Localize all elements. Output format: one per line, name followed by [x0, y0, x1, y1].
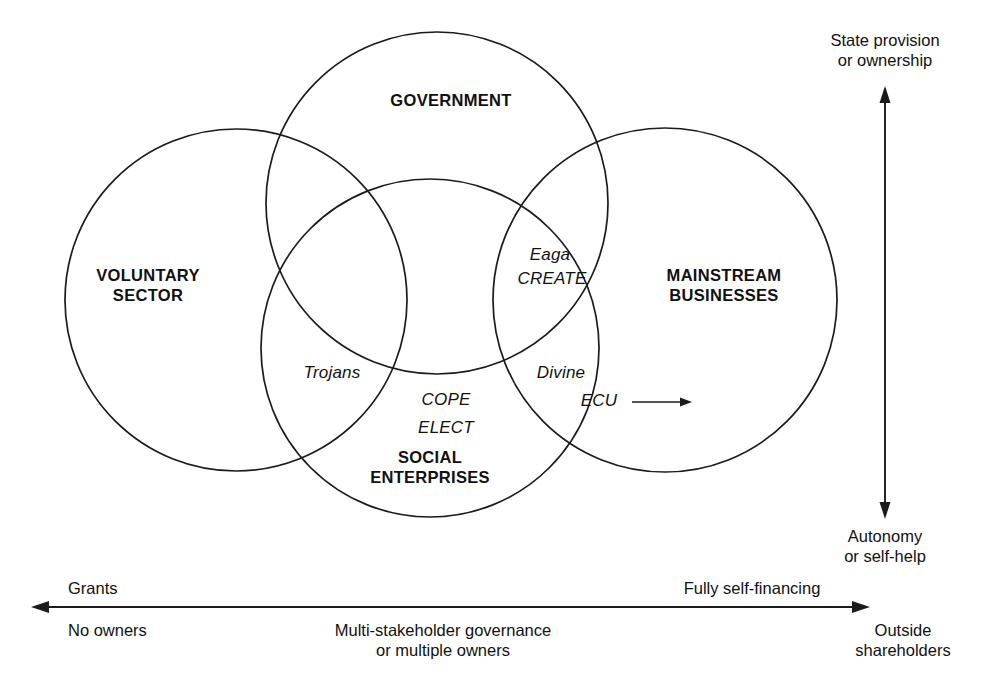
set-label-social-enterprises: SOCIAL ENTERPRISES — [370, 447, 490, 487]
org-label-ecu: ECU — [581, 391, 618, 412]
set-label-voluntary-sector-line1: VOLUNTARY — [96, 265, 200, 285]
set-label-social-enterprises-line2: ENTERPRISES — [370, 467, 490, 487]
set-label-mainstream-businesses-line1: MAINSTREAM — [667, 265, 782, 285]
circle-government — [266, 32, 608, 374]
vertical-axis-top-line2: or ownership — [830, 50, 939, 70]
set-label-voluntary-sector: VOLUNTARY SECTOR — [96, 265, 200, 305]
horizontal-axis-middle-caption: Multi-stakeholder governance or multiple… — [335, 620, 551, 660]
set-label-government-line1: GOVERNMENT — [390, 90, 511, 110]
vertical-axis-arrowhead-up — [880, 86, 891, 103]
ecu-pointer-arrowhead — [680, 398, 692, 407]
org-label-trojans: Trojans — [304, 363, 361, 384]
horizontal-axis-left-below-caption: No owners — [68, 620, 147, 640]
horizontal-axis-arrowhead-right — [852, 601, 870, 613]
org-label-eaga: Eaga — [530, 245, 571, 266]
set-label-voluntary-sector-line2: SECTOR — [96, 285, 200, 305]
vertical-axis-top-caption: State provision or ownership — [830, 30, 939, 70]
org-label-create: CREATE — [518, 269, 587, 290]
set-label-mainstream-businesses-line2: BUSINESSES — [667, 285, 782, 305]
horizontal-axis-middle-line2: or multiple owners — [335, 640, 551, 660]
horizontal-axis-right-above-caption: Fully self-financing — [684, 578, 821, 598]
circle-mainstream-businesses — [493, 128, 837, 472]
org-label-elect: ELECT — [418, 418, 474, 439]
org-label-cope: COPE — [422, 390, 471, 411]
set-label-government: GOVERNMENT — [390, 90, 511, 110]
horizontal-axis-arrowhead-left — [31, 601, 49, 613]
set-label-mainstream-businesses: MAINSTREAM BUSINESSES — [667, 265, 782, 305]
vertical-axis-bottom-line2: or self-help — [844, 546, 926, 566]
vertical-axis-top-line1: State provision — [830, 30, 939, 50]
horizontal-axis-left-above-caption: Grants — [68, 578, 118, 598]
horizontal-axis-right-below-line1: Outside — [855, 620, 950, 640]
vertical-axis-bottom-line1: Autonomy — [844, 526, 926, 546]
vertical-axis-bottom-caption: Autonomy or self-help — [844, 526, 926, 566]
org-label-divine: Divine — [537, 363, 585, 384]
horizontal-axis-right-below-line2: shareholders — [855, 640, 950, 660]
horizontal-axis-right-below-caption: Outside shareholders — [855, 620, 950, 660]
horizontal-axis-middle-line1: Multi-stakeholder governance — [335, 620, 551, 640]
venn-diagram-canvas: VOLUNTARY SECTOR GOVERNMENT MAINSTREAM B… — [0, 0, 991, 699]
vertical-axis-arrowhead-down — [880, 502, 891, 519]
set-label-social-enterprises-line1: SOCIAL — [370, 447, 490, 467]
